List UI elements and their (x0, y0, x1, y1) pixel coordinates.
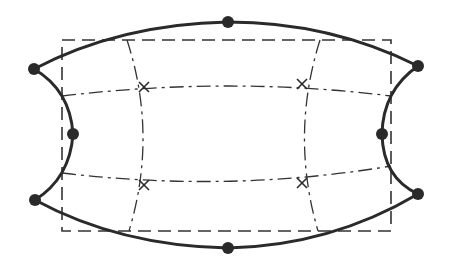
bottom-boundary-curve (35, 194, 418, 248)
node-left-middle (67, 128, 79, 140)
boundary-nodes (28, 16, 424, 254)
left-vertical-gridline (127, 40, 143, 231)
node-top-left (28, 63, 40, 75)
cross-upper-left-icon (139, 82, 149, 92)
lower-horizontal-gridline (62, 166, 391, 182)
cross-lower-right-icon (297, 178, 307, 188)
node-bottom-middle (222, 242, 234, 254)
node-bottom-left (29, 194, 41, 206)
node-bottom-right (412, 188, 424, 200)
right-vertical-gridline (304, 40, 320, 231)
right-boundary-curve (382, 66, 418, 194)
top-boundary-curve (34, 22, 418, 69)
upper-horizontal-gridline (62, 86, 391, 96)
cross-upper-right-icon (297, 79, 307, 89)
node-right-middle (376, 128, 388, 140)
deformed-element-diagram (0, 0, 453, 266)
node-top-middle (222, 16, 234, 28)
reference-rectangle (62, 40, 391, 231)
cross-lower-left-icon (139, 180, 149, 190)
diagram-svg (0, 0, 453, 266)
node-top-right (412, 60, 424, 72)
interior-cross-markers (139, 79, 307, 190)
